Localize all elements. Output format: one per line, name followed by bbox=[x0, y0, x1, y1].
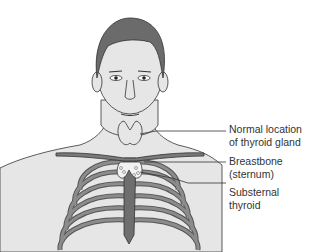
label-breastbone: Breastbone (sternum) bbox=[229, 155, 283, 180]
label-normal-location: Normal location of thyroid gland bbox=[229, 123, 302, 148]
label-substernal-thyroid: Substernal thyroid bbox=[229, 186, 279, 211]
